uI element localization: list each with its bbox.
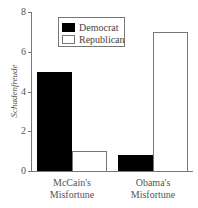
legend-label: Republican	[79, 34, 125, 45]
legend: Democrat Republican	[58, 17, 125, 47]
bar-republican-mccain	[72, 151, 107, 171]
y-tick	[28, 131, 31, 132]
legend-item-republican: Republican	[62, 34, 125, 44]
x-label-line: Obama's	[123, 177, 183, 189]
legend-item-democrat: Democrat	[62, 22, 118, 32]
y-axis-label: Schadenfreude	[9, 61, 19, 121]
legend-label: Democrat	[79, 22, 118, 33]
bar-democrat-mccain	[37, 72, 72, 171]
x-category-label-mccain: McCain's Misfortune	[42, 177, 102, 201]
x-label-line: McCain's	[42, 177, 102, 189]
x-label-line: Misfortune	[123, 189, 183, 201]
x-label-line: Misfortune	[42, 189, 102, 201]
y-tick-label: 8	[14, 7, 26, 17]
y-tick	[28, 52, 31, 53]
bar-democrat-obama	[118, 155, 153, 171]
legend-swatch-democrat	[62, 23, 75, 32]
y-axis	[31, 12, 32, 172]
bar-republican-obama	[153, 32, 188, 171]
x-category-label-obama: Obama's Misfortune	[123, 177, 183, 201]
y-tick	[28, 12, 31, 13]
y-tick-label: 0	[14, 166, 26, 176]
y-tick	[28, 92, 31, 93]
x-axis	[31, 171, 193, 172]
y-tick-label: 2	[14, 126, 26, 136]
y-tick-label: 6	[14, 47, 26, 57]
y-tick	[28, 171, 31, 172]
legend-swatch-republican	[62, 35, 75, 44]
